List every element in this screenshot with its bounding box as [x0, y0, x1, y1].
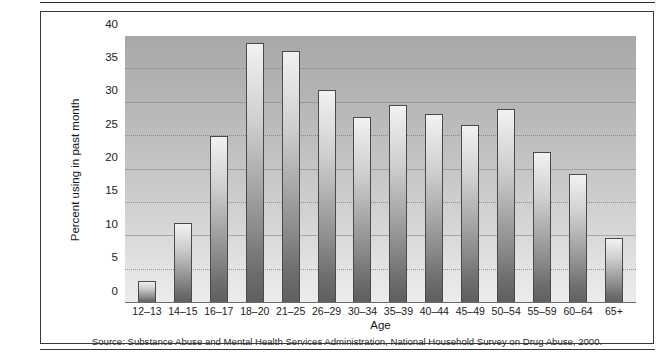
- x-tick-label: 55–59: [524, 305, 560, 317]
- x-tick-label: 50–54: [488, 305, 524, 317]
- x-tick-label: 60–64: [560, 305, 596, 317]
- bar-slot: [488, 36, 524, 303]
- bar[interactable]: [210, 136, 228, 303]
- y-tick-label: 30: [105, 86, 118, 98]
- bar[interactable]: [246, 43, 264, 303]
- x-tick-label: 35–39: [380, 305, 416, 317]
- bar[interactable]: [461, 125, 479, 303]
- bar-slot: [201, 36, 237, 303]
- bar[interactable]: [569, 174, 587, 303]
- bar[interactable]: [389, 105, 407, 303]
- bar-series: [125, 36, 636, 303]
- bar-slot: [452, 36, 488, 303]
- bar-slot: [524, 36, 560, 303]
- figure-root: Percent using in past month 051015202530…: [0, 0, 670, 357]
- y-tick-label: 25: [105, 119, 118, 131]
- x-tick-label: 40–44: [416, 305, 452, 317]
- y-tick-label: 10: [105, 219, 118, 231]
- y-axis-title: Percent using in past month: [67, 36, 83, 303]
- source-note: Source: Substance Abuse and Mental Healt…: [41, 336, 653, 347]
- x-tick-label: 16–17: [201, 305, 237, 317]
- x-tick-label: 30–34: [345, 305, 381, 317]
- bar-slot: [380, 36, 416, 303]
- y-tick-label: 40: [105, 19, 118, 31]
- bar[interactable]: [174, 223, 192, 303]
- bar-slot: [237, 36, 273, 303]
- x-tick-label: 14–15: [165, 305, 201, 317]
- bar-slot: [309, 36, 345, 303]
- bar[interactable]: [318, 90, 336, 303]
- x-axis-ticks: 12–1314–1516–1718–2021–2526–2930–3435–39…: [125, 305, 636, 317]
- plot-area: [125, 36, 636, 303]
- x-tick-label: 21–25: [273, 305, 309, 317]
- bar[interactable]: [497, 109, 515, 303]
- y-tick-label: 15: [105, 186, 118, 198]
- bottom-divider: [40, 349, 655, 350]
- bar-slot: [416, 36, 452, 303]
- plot-area-wrapper: 0510152025303540: [125, 36, 636, 303]
- bar[interactable]: [533, 152, 551, 303]
- bar-slot: [560, 36, 596, 303]
- y-tick-label: 20: [105, 152, 118, 164]
- x-tick-label: 26–29: [309, 305, 345, 317]
- y-tick-label: 0: [112, 286, 118, 298]
- bar[interactable]: [425, 114, 443, 303]
- top-divider: [40, 2, 655, 3]
- bar[interactable]: [282, 51, 300, 303]
- bar-slot: [273, 36, 309, 303]
- bar-slot: [165, 36, 201, 303]
- x-axis-title: Age: [125, 319, 636, 331]
- x-tick-label: 12–13: [129, 305, 165, 317]
- bar-slot: [129, 36, 165, 303]
- bar[interactable]: [138, 281, 156, 303]
- y-axis-title-text: Percent using in past month: [69, 98, 81, 241]
- figure-box: Percent using in past month 051015202530…: [40, 11, 654, 344]
- bar[interactable]: [605, 238, 623, 303]
- x-axis-line: [125, 302, 636, 303]
- x-tick-label: 18–20: [237, 305, 273, 317]
- bar-slot: [596, 36, 632, 303]
- y-tick-label: 5: [112, 252, 118, 264]
- x-tick-label: 45–49: [452, 305, 488, 317]
- y-tick-label: 35: [105, 52, 118, 64]
- bar[interactable]: [353, 117, 371, 303]
- x-tick-label: 65+: [596, 305, 632, 317]
- bar-slot: [345, 36, 381, 303]
